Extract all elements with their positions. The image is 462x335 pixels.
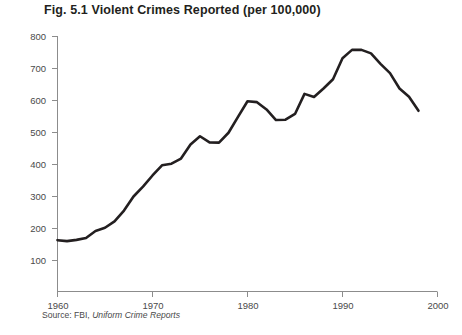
y-tick-label-300: 300 [12, 191, 46, 202]
x-axis-ticks [58, 292, 438, 298]
y-tick-label-400: 400 [12, 159, 46, 170]
y-tick-label-600: 600 [12, 95, 46, 106]
y-tick-label-500: 500 [12, 127, 46, 138]
x-tick-label-2000: 2000 [418, 300, 458, 311]
line-chart [0, 0, 462, 335]
y-axis-ticks [52, 37, 58, 261]
figure-container: Fig. 5.1 Violent Crimes Reported (per 10… [0, 0, 462, 335]
source-prefix: Source: FBI, [42, 310, 92, 320]
y-tick-label-200: 200 [12, 223, 46, 234]
x-tick-label-1990: 1990 [323, 300, 363, 311]
source-note: Source: FBI, Uniform Crime Reports [42, 310, 180, 320]
y-tick-label-700: 700 [12, 63, 46, 74]
y-tick-label-100: 100 [12, 255, 46, 266]
y-tick-label-800: 800 [12, 31, 46, 42]
data-series-line [58, 50, 419, 241]
x-tick-label-1980: 1980 [228, 300, 268, 311]
source-publication: Uniform Crime Reports [92, 310, 180, 320]
